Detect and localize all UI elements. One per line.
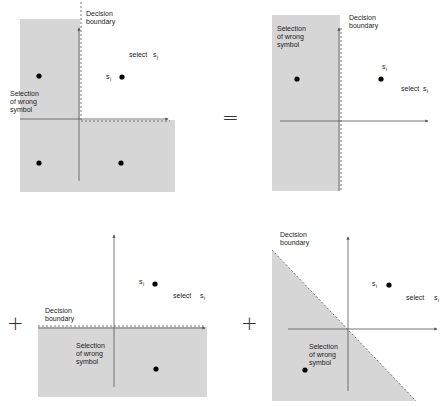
symbol-dot — [118, 160, 123, 165]
panel-top-right: Decision boundary Selection of wrong sym… — [272, 14, 428, 192]
symbol-dot — [302, 367, 307, 372]
symbol-dot-si — [152, 281, 157, 286]
symbol-dot — [294, 76, 299, 81]
equals-operator: = — [222, 105, 239, 129]
point-subscript: i — [110, 76, 111, 82]
wrong-selection-region — [38, 327, 207, 397]
select-label: select — [173, 292, 191, 299]
select-subscript: j — [156, 54, 158, 60]
select-subscript: i — [427, 88, 428, 94]
select-subscript: i — [438, 297, 439, 303]
boundary-label: boundary — [349, 22, 379, 30]
boundary-label: boundary — [86, 18, 116, 26]
plus-operator: + — [241, 311, 258, 335]
select-label: select — [129, 51, 147, 58]
select-label: select — [406, 294, 424, 301]
symbol-dot — [36, 73, 41, 78]
boundary-label: Decision — [349, 14, 376, 21]
point-subscript: i — [386, 66, 387, 72]
point-subscript: i — [143, 281, 144, 287]
region-label: symbol — [10, 106, 33, 114]
wrong-selection-region — [20, 19, 175, 192]
point-subscript: i — [376, 283, 377, 289]
symbol-dot-si — [386, 282, 391, 287]
panel-top-left: Decision boundary select s j s i Selecti… — [10, 2, 175, 192]
select-label: select — [401, 85, 419, 92]
boundary-label: Decision — [45, 307, 72, 314]
panel-bottom-right: Decision boundary s i select s i Selecti… — [272, 231, 439, 401]
region-label: of wrong — [309, 351, 336, 359]
panel-bottom-left: s i select s i Decision boundary Selecti… — [38, 235, 207, 397]
symbol-dot — [36, 160, 41, 165]
region-label: Selection — [309, 343, 338, 350]
region-label: symbol — [277, 41, 300, 49]
symbol-dot — [153, 366, 158, 371]
region-label: of wrong — [277, 33, 304, 41]
region-label: of wrong — [76, 350, 103, 358]
region-label: Selection — [76, 342, 105, 349]
region-label: Selection — [277, 25, 306, 32]
region-label: symbol — [76, 358, 99, 366]
symbol-dot-si — [119, 74, 124, 79]
boundary-label: boundary — [45, 315, 75, 323]
boundary-label: Decision — [280, 231, 307, 238]
region-label: symbol — [309, 359, 332, 367]
decision-diagram: Decision boundary select s j s i Selecti… — [0, 0, 447, 407]
select-subscript: i — [204, 295, 205, 301]
boundary-label: Decision — [86, 10, 113, 17]
region-label: Selection — [10, 90, 39, 97]
region-label: of wrong — [10, 98, 37, 106]
plus-operator: + — [7, 311, 24, 335]
symbol-dot-si — [378, 76, 383, 81]
boundary-label: boundary — [280, 239, 310, 247]
